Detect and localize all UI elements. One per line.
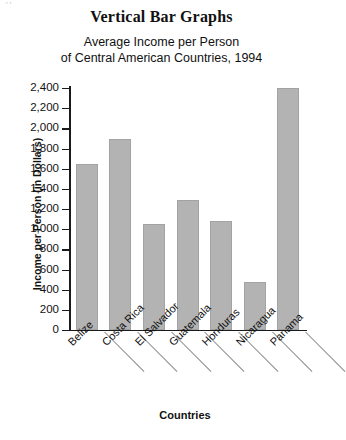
y-axis-tick: [62, 249, 70, 250]
y-axis-tick-label: 0: [53, 323, 59, 335]
bar: [277, 88, 299, 330]
y-axis-tick: [62, 189, 70, 190]
x-axis-separator: [305, 332, 345, 372]
y-axis-tick: [62, 310, 70, 311]
y-axis-tick: [62, 128, 70, 129]
y-axis-tick: [62, 229, 70, 230]
y-axis-tick: [62, 209, 70, 210]
y-axis-tick-label: 2,200: [30, 101, 59, 113]
bar: [109, 139, 131, 330]
y-axis-tick: [62, 88, 70, 89]
bar: [76, 164, 98, 330]
y-axis-tick-label: 2,400: [30, 81, 59, 93]
x-axis-title: Countries: [60, 409, 310, 421]
y-axis-tick: [62, 149, 70, 150]
y-axis-tick: [62, 290, 70, 291]
y-axis-tick: [62, 108, 70, 109]
y-axis-title: Income per Person (in Dollars): [31, 114, 43, 314]
y-axis-tick: [62, 270, 70, 271]
y-axis-tick: [62, 169, 70, 170]
y-axis-tick: [62, 330, 70, 331]
